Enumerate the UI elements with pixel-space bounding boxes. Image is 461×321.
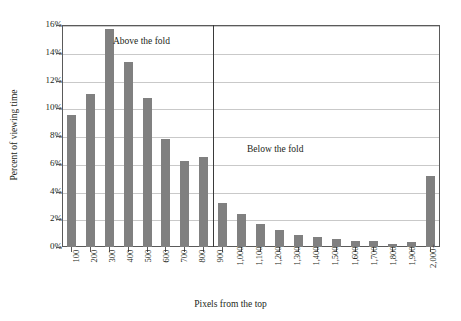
bar-slot bbox=[402, 25, 421, 247]
bar bbox=[161, 139, 170, 247]
bar bbox=[218, 203, 227, 247]
y-axis-tick-mark bbox=[56, 192, 61, 193]
x-axis-tick-label: 2,000+ bbox=[428, 244, 461, 268]
bar-series bbox=[62, 25, 440, 247]
bar-slot bbox=[346, 25, 365, 247]
x-axis-title: Pixels from the top bbox=[0, 299, 461, 309]
bar bbox=[105, 29, 114, 247]
bar bbox=[180, 161, 189, 247]
bar bbox=[124, 62, 133, 247]
y-axis: 0%2%4%6%8%10%12%14%16% bbox=[26, 0, 62, 321]
y-axis-tick-mark bbox=[56, 219, 61, 220]
bar-slot bbox=[213, 25, 232, 247]
bar-slot bbox=[327, 25, 346, 247]
bar-slot bbox=[251, 25, 270, 247]
bar-slot bbox=[138, 25, 157, 247]
y-axis-title: Percent of viewing time bbox=[9, 65, 19, 205]
annotation-below-the-fold: Below the fold bbox=[247, 144, 303, 154]
y-axis-tick-mark bbox=[56, 136, 61, 137]
bar-slot bbox=[308, 25, 327, 247]
y-axis-tick-mark bbox=[56, 164, 61, 165]
bar bbox=[67, 115, 76, 247]
y-axis-tick-mark bbox=[56, 53, 61, 54]
bar-slot bbox=[365, 25, 384, 247]
bar bbox=[256, 224, 265, 247]
bar bbox=[86, 94, 95, 247]
bar-slot bbox=[383, 25, 402, 247]
bar bbox=[294, 235, 303, 247]
y-axis-tick-mark bbox=[56, 247, 61, 248]
bar-slot bbox=[81, 25, 100, 247]
bar-slot bbox=[270, 25, 289, 247]
x-axis-tick-labels: 1002003004005006007008009001,0001,1001,2… bbox=[62, 254, 440, 294]
bar-slot bbox=[62, 25, 81, 247]
chart-figure: 0%2%4%6%8%10%12%14%16% Percent of viewin… bbox=[0, 0, 461, 321]
y-axis-tick-mark bbox=[56, 108, 61, 109]
bar bbox=[237, 214, 246, 247]
bar-slot bbox=[232, 25, 251, 247]
bar-slot bbox=[175, 25, 194, 247]
bar bbox=[199, 157, 208, 247]
bar-slot bbox=[421, 25, 440, 247]
bar-slot bbox=[119, 25, 138, 247]
bar-slot bbox=[289, 25, 308, 247]
bar-slot bbox=[194, 25, 213, 247]
bar bbox=[143, 98, 152, 247]
bar-slot bbox=[100, 25, 119, 247]
bar bbox=[275, 230, 284, 247]
annotation-above-the-fold: Above the fold bbox=[113, 36, 170, 46]
bar bbox=[426, 176, 435, 247]
y-axis-tick-mark bbox=[56, 81, 61, 82]
bar-slot bbox=[157, 25, 176, 247]
y-axis-tick-mark bbox=[56, 25, 61, 26]
x-axis-label-slot: 100 bbox=[62, 254, 80, 294]
